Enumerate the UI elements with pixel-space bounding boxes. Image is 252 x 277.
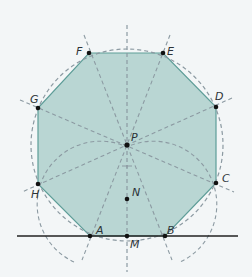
label-n: N [132,186,140,199]
label-a: A [95,224,104,237]
octagon-diagram: A B C D E F G H M N P [0,0,252,277]
point-f [87,51,92,56]
point-g [36,106,41,111]
point-c [214,181,219,186]
label-p: P [131,131,138,144]
label-h: H [31,188,39,201]
label-b: B [167,224,175,237]
point-e [161,51,166,56]
point-a [88,234,93,239]
point-n [125,197,130,202]
label-m: M [130,238,140,251]
label-f: F [76,45,83,58]
point-p [124,142,129,147]
point-d [214,105,219,110]
label-e: E [167,45,174,58]
label-c: C [222,172,230,185]
label-d: D [215,90,223,103]
point-m [125,234,130,239]
label-g: G [30,93,39,106]
point-h [36,182,41,187]
